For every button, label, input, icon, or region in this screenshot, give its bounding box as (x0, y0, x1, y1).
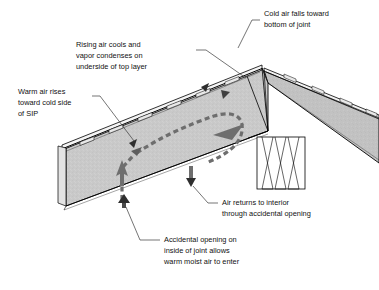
label-line: Accidental opening on (164, 235, 237, 244)
label-line: inside of joint allows (164, 246, 230, 255)
label-line: toward cold side (18, 98, 71, 107)
label-line: Air returns to interior (222, 198, 289, 207)
label-line: Rising air cools and (76, 40, 141, 49)
label-line: through accidental opening (222, 209, 311, 218)
label-line: Cold air falls toward (264, 9, 329, 18)
sip-roof-joint-diagram: Cold air falls toward bottom of joint Ri… (0, 0, 379, 290)
diagram-canvas: Cold air falls toward bottom of joint Ri… (0, 0, 379, 290)
label-line: of SIP (18, 109, 38, 118)
label-line: warm moist air to enter (163, 257, 240, 266)
label-line: Warm air rises (18, 87, 66, 96)
label-accidental-opening: Accidental opening on inside of joint al… (163, 235, 240, 266)
label-rising-air-cools: Rising air cools and vapor condenses on … (76, 40, 148, 71)
label-line: bottom of joint (264, 20, 310, 29)
label-line: vapor condenses on (76, 51, 143, 60)
label-line: underside of top layer (76, 62, 148, 71)
ridge-beam (257, 137, 305, 189)
